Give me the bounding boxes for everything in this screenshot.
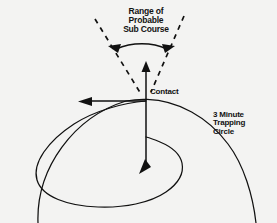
contact-label: Contact — [150, 88, 178, 96]
range-label-line-3: Sub Course — [106, 25, 186, 34]
span-arrow-head-left-icon — [108, 44, 121, 53]
range-of-probable-sub-course-label: Range of Probable Sub Course — [106, 7, 186, 34]
trapping-label-line-3: Circle — [213, 128, 245, 136]
approach-track-arrow-head-icon — [139, 159, 151, 174]
turn-away-arrow-head-icon — [78, 97, 92, 106]
diagram-canvas: Range of Probable Sub Course Contact 3 M… — [0, 0, 277, 223]
sub-course-span-arc — [116, 44, 167, 49]
contact-heading-arrow-head-icon — [142, 61, 151, 72]
search-loop-path — [36, 101, 182, 207]
span-arrow-head-right-icon — [162, 44, 175, 53]
trapping-circle-label: 3 Minute Trapping Circle — [213, 111, 245, 136]
